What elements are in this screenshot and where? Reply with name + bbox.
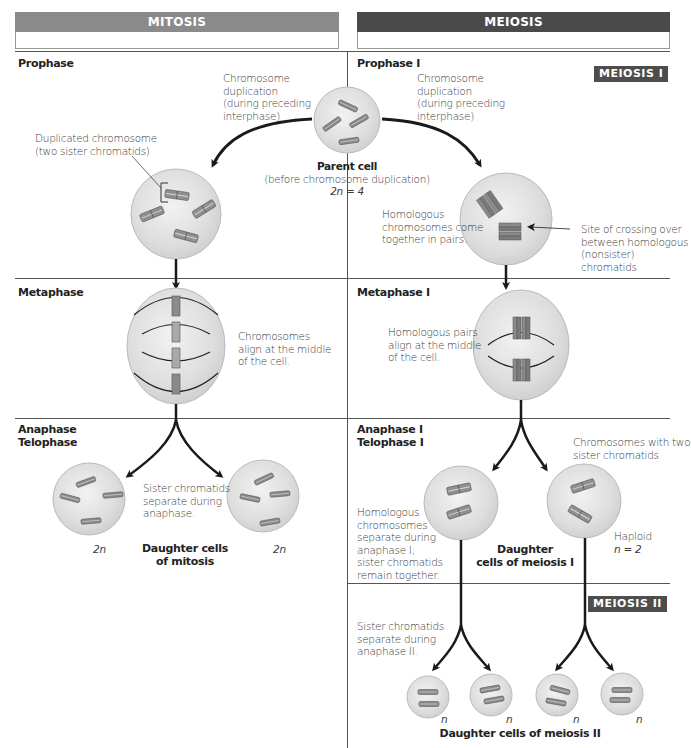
- meiosis-2-ploidy-3: n: [573, 713, 579, 726]
- parent-cell: [314, 87, 380, 153]
- arrow-to-mitosis-prophase: [213, 119, 312, 165]
- arrow-meiosis-to-right-daughter: [521, 420, 546, 469]
- meiosis-2-note: Sister chromatids separate during anapha…: [357, 620, 444, 658]
- mitosis-anaphase-note: Sister chromatids separate during anapha…: [143, 482, 230, 520]
- arrow-to-meiosis-prophase: [382, 119, 480, 165]
- homologous-separate-note: Homologous chromosomes separate during a…: [357, 506, 443, 581]
- meiosis-2-ploidy-2: n: [506, 713, 512, 726]
- meiosis-2-ploidy-4: n: [636, 713, 642, 726]
- meiosis-1-tag: MEIOSIS I: [594, 66, 668, 82]
- arrow-meiosis-to-left-daughter: [494, 420, 521, 469]
- meiosis-2-daughter-cell-4: [601, 673, 643, 715]
- meiosis-metaphase-cell: [473, 290, 569, 400]
- mitosis-daughter-cell-right: [227, 460, 299, 532]
- parent-cell-label: Parent cell (before chromosome duplicati…: [247, 160, 447, 198]
- mitosis-duplication-note: Chromosome duplication (during preceding…: [223, 72, 311, 122]
- mitosis-metaphase-stage: Metaphase: [18, 286, 84, 299]
- mitosis-anaphase-telophase-stage: Anaphase Telophase: [18, 423, 77, 449]
- mitosis-prophase-stage: Prophase: [18, 57, 74, 70]
- arrow-m2-rl: [557, 625, 585, 669]
- mitosis-metaphase-cell: [127, 288, 225, 404]
- duplicated-chromosome-label: Duplicated chromosome (two sister chroma…: [35, 132, 157, 157]
- meiosis-metaphase-stage: Metaphase I: [357, 286, 430, 299]
- mitosis-daughter-cell-left: [53, 463, 125, 535]
- mitosis-right-ploidy: 2n: [273, 543, 286, 556]
- mitosis-metaphase-note: Chromosomes align at the middle of the c…: [238, 330, 331, 368]
- meiosis-2-daughter-label: Daughter cells of meiosis II: [410, 727, 630, 740]
- meiosis-prophase-stage: Prophase I: [357, 57, 420, 70]
- crossing-over-note: Site of crossing over between homologous…: [581, 223, 691, 273]
- meiosis-1-daughter-cell-right: [547, 464, 621, 538]
- meiosis-1-daughter-label: Daughter cells of meiosis I: [470, 543, 580, 569]
- chromosomes-two-chromatids-note: Chromosomes with two sister chromatids: [573, 436, 690, 461]
- haploid-note: Haploid n = 2: [614, 530, 652, 555]
- mitosis-left-ploidy: 2n: [93, 543, 106, 556]
- meiosis-2-daughter-cell-3: [536, 674, 578, 716]
- meiosis-2-tag: MEIOSIS II: [588, 596, 667, 612]
- mitosis-meiosis-diagram: [0, 0, 691, 748]
- meiosis-metaphase-note: Homologous pairs align at the middle of …: [388, 326, 481, 364]
- homologous-pairing-note: Homologous chromosomes come together in …: [382, 208, 483, 246]
- meiosis-anaphase-telophase-stage: Anaphase I Telophase I: [357, 423, 424, 449]
- meiosis-header-title: MEIOSIS: [357, 12, 670, 32]
- arrow-mitosis-to-left-daughter: [128, 420, 176, 476]
- mitosis-prophase-cell: [131, 156, 221, 259]
- arrow-m2-rr: [585, 625, 612, 669]
- mitosis-header-title: MITOSIS: [15, 12, 339, 32]
- arrow-mitosis-to-right-daughter: [176, 420, 221, 476]
- meiosis-duplication-note: Chromosome duplication (during preceding…: [417, 72, 505, 122]
- meiosis-2-daughter-cell-1: [407, 676, 449, 718]
- mitosis-daughter-label: Daughter cells of mitosis: [130, 542, 240, 568]
- meiosis-2-daughter-cell-2: [470, 674, 512, 716]
- arrow-m2-lr: [461, 625, 489, 669]
- meiosis-2-ploidy-1: n: [441, 713, 447, 726]
